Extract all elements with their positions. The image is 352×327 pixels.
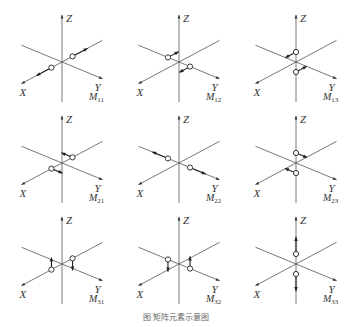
panel-label: M31 <box>88 293 105 306</box>
point-marker <box>187 64 192 69</box>
x-axis-label: X <box>136 86 145 98</box>
point-marker <box>293 170 298 175</box>
panel-m31: ZXYM31 <box>19 214 105 306</box>
point-marker <box>293 251 298 256</box>
panel-label: M22 <box>205 192 222 205</box>
panel-label: M21 <box>88 192 105 205</box>
z-axis-label: Z <box>183 12 190 24</box>
panel-label: M12 <box>205 91 222 104</box>
point-marker <box>165 257 170 262</box>
point-marker <box>293 150 298 155</box>
point-marker <box>187 165 192 170</box>
diagram-canvas: ZXYM11ZXYM12ZXYM13ZXYM21ZXYM22ZXYM23ZXYM… <box>0 0 352 310</box>
figure-caption: 图 矩阵元素示意图 <box>0 311 352 322</box>
point-marker <box>293 271 298 276</box>
point-marker <box>187 266 192 271</box>
point-marker <box>165 156 170 161</box>
x-axis-label: X <box>253 86 262 98</box>
point-marker <box>70 155 75 160</box>
panel-label: M32 <box>205 293 222 306</box>
point-marker <box>293 49 298 54</box>
panel-label: M33 <box>322 293 339 306</box>
force-arrow <box>193 169 206 174</box>
force-arrow <box>152 152 165 157</box>
panel-m22: ZXYM22 <box>136 113 222 205</box>
panel-m11: ZXYM11 <box>19 12 105 104</box>
panel-m23: ZXYM23 <box>253 113 339 205</box>
point-marker <box>49 65 54 70</box>
matrix-element-diagram: ZXYM11ZXYM12ZXYM13ZXYM21ZXYM22ZXYM23ZXYM… <box>0 0 352 327</box>
x-axis-label: X <box>19 187 28 199</box>
panel-label: M11 <box>88 91 105 104</box>
x-axis-label: X <box>253 187 262 199</box>
z-axis-label: Z <box>183 214 190 226</box>
force-arrow <box>36 69 48 76</box>
x-axis-label: X <box>253 288 262 300</box>
force-arrow <box>75 48 87 55</box>
panel-m33: ZXYM33 <box>253 214 339 306</box>
z-axis-label: Z <box>300 113 307 125</box>
x-axis-label: X <box>19 288 28 300</box>
z-axis-label: Z <box>300 214 307 226</box>
panel-m13: ZXYM13 <box>253 12 339 104</box>
point-marker <box>49 166 54 171</box>
point-marker <box>165 55 170 60</box>
panel-m21: ZXYM21 <box>19 113 105 205</box>
z-axis-label: Z <box>66 214 73 226</box>
x-axis-label: X <box>136 288 145 300</box>
point-marker <box>293 69 298 74</box>
panel-label: M23 <box>322 192 339 205</box>
z-axis-label: Z <box>66 113 73 125</box>
panel-m12: ZXYM12 <box>136 12 222 104</box>
z-axis-label: Z <box>183 113 190 125</box>
z-axis-label: Z <box>66 12 73 24</box>
x-axis-label: X <box>136 187 145 199</box>
panel-label: M13 <box>322 91 339 104</box>
point-marker <box>70 54 75 59</box>
panel-m32: ZXYM32 <box>136 214 222 306</box>
x-axis-label: X <box>19 86 28 98</box>
point-marker <box>70 256 75 261</box>
z-axis-label: Z <box>300 12 307 24</box>
point-marker <box>49 267 54 272</box>
